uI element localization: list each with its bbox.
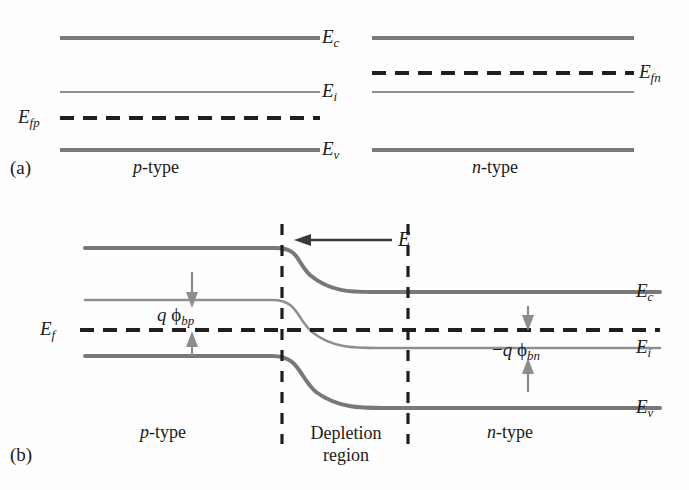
electric-field-label: E bbox=[398, 229, 410, 249]
panel-b-label-ev: Ev bbox=[636, 397, 653, 420]
panel-b-valence-band bbox=[85, 356, 660, 408]
panel-a-region-p-type: p-type bbox=[133, 158, 179, 176]
barrier-right-label-minus-q-phi-bn: −q ϕbn bbox=[492, 340, 540, 363]
panel-b-region-n-type: n-type bbox=[487, 423, 533, 441]
panel-b-label-ei: Ei bbox=[636, 337, 651, 360]
depletion-line-2: region bbox=[294, 445, 398, 467]
panel-a-label-efp: Efp bbox=[18, 107, 40, 130]
panel-a-label-ec: Ec bbox=[322, 27, 339, 50]
panel-a-region-n-type: n-type bbox=[472, 158, 518, 176]
panel-b-tag: (b) bbox=[10, 445, 32, 464]
figure-root: Ec Ei Ev Efp Efn (a) p-type n-type Ef Ec… bbox=[0, 0, 689, 490]
electric-field-arrow-head bbox=[294, 234, 311, 246]
panel-b-conduction-band bbox=[85, 248, 660, 292]
barrier-left-up-arrow-head bbox=[186, 331, 198, 347]
panel-a-label-efn: Efn bbox=[639, 62, 661, 85]
panel-b-label-ec: Ec bbox=[636, 281, 653, 304]
panel-a-label-ei: Ei bbox=[322, 81, 337, 104]
barrier-left-label-q-phi-bp: q ϕbp bbox=[157, 305, 194, 328]
panel-a-tag: (a) bbox=[10, 158, 31, 177]
band-diagram-svg bbox=[0, 0, 689, 490]
panel-a-label-ev: Ev bbox=[322, 139, 339, 162]
depletion-line-1: Depletion bbox=[294, 423, 398, 445]
panel-b-region-p-type: p-type bbox=[140, 423, 186, 441]
panel-b-region-depletion: Depletion region bbox=[294, 423, 398, 467]
panel-b-label-ef: Ef bbox=[40, 319, 55, 342]
